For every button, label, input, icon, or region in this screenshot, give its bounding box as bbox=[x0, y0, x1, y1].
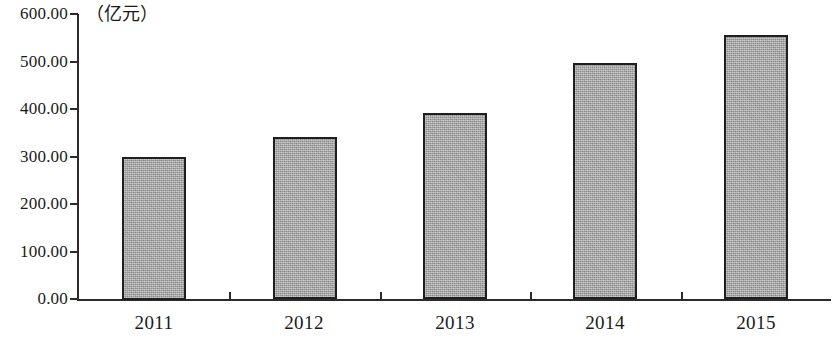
bar-2011 bbox=[122, 157, 186, 300]
y-axis-tick-label: 500.00 bbox=[2, 53, 68, 70]
y-axis-tick bbox=[70, 251, 78, 253]
x-axis-label-2011: 2011 bbox=[79, 312, 229, 334]
bar-2015 bbox=[724, 35, 788, 299]
y-axis-tick-label: 600.00 bbox=[2, 5, 68, 22]
x-axis-tick bbox=[681, 292, 683, 300]
y-axis-tick-label: 300.00 bbox=[2, 148, 68, 165]
x-axis-label-2014: 2014 bbox=[530, 312, 680, 334]
y-axis-tick bbox=[70, 13, 78, 15]
bar-2014 bbox=[573, 63, 637, 299]
y-axis-tick-label: 0.00 bbox=[2, 290, 68, 307]
x-axis-label-2013: 2013 bbox=[380, 312, 530, 334]
x-axis-label-2015: 2015 bbox=[681, 312, 831, 334]
y-axis-unit-label: （亿元） bbox=[86, 4, 158, 24]
x-axis-line bbox=[77, 299, 831, 301]
y-axis-tick bbox=[70, 298, 78, 300]
y-axis-tick-label: 200.00 bbox=[2, 195, 68, 212]
bar-2012 bbox=[273, 137, 337, 299]
y-axis-tick-label: 400.00 bbox=[2, 100, 68, 117]
x-axis-label-2012: 2012 bbox=[229, 312, 379, 334]
y-axis-tick-label: 100.00 bbox=[2, 243, 68, 260]
y-axis-tick bbox=[70, 61, 78, 63]
x-axis-tick bbox=[229, 292, 231, 300]
y-axis-tick bbox=[70, 156, 78, 158]
x-axis-tick bbox=[530, 292, 532, 300]
y-axis-tick bbox=[70, 108, 78, 110]
y-axis-line bbox=[77, 14, 79, 301]
y-axis-tick bbox=[70, 203, 78, 205]
x-axis-tick bbox=[380, 292, 382, 300]
bar-chart: （亿元） 0.00100.00200.00300.00400.00500.006… bbox=[0, 0, 833, 339]
bar-2013 bbox=[423, 113, 487, 299]
